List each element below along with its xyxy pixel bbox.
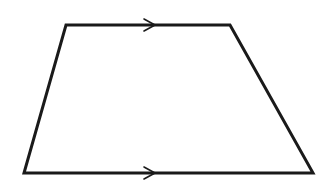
trapezoid-diagram: [0, 0, 324, 193]
trapezoid-shape: [24, 25, 313, 173]
